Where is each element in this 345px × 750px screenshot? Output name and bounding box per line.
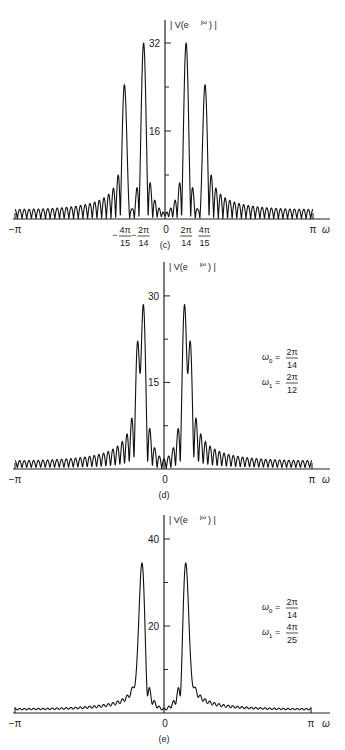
svg-text:ω: ω	[262, 602, 269, 612]
x-tick-label: −2π14	[131, 225, 150, 248]
x-axis-label: ω	[322, 718, 330, 729]
x-tick-label: −4π15	[112, 225, 131, 248]
y-axis-label-exponent: jω	[200, 19, 207, 25]
svg-text:ω: ω	[262, 352, 269, 362]
svg-text:15: 15	[120, 238, 130, 248]
frequency-annotation: ω0=2π14	[262, 347, 298, 370]
svg-text:14: 14	[287, 360, 297, 370]
x-tick-label: 0	[163, 224, 169, 235]
y-axis-label: | V(e	[170, 20, 189, 30]
frequency-annotation: ω0=2π14	[262, 597, 298, 620]
svg-text:14: 14	[139, 238, 149, 248]
svg-text:=: =	[275, 377, 280, 387]
svg-text:4π: 4π	[286, 622, 297, 632]
y-axis-label: | V(e	[169, 515, 188, 525]
svg-text:12: 12	[287, 385, 297, 395]
panel-d: | V(ejω) |1530−π0πω(d)ω0=2π14ω1=2π12	[0, 250, 345, 500]
svg-text:) |: ) |	[209, 20, 217, 30]
panel-e: | V(ejω) |2040−π0πω(e)ω0=2π14ω1=4π25	[0, 500, 345, 750]
frequency-annotation: ω1=4π25	[262, 622, 298, 645]
svg-text:) |: ) |	[208, 515, 216, 525]
svg-text:15: 15	[199, 238, 209, 248]
x-axis-label: ω	[322, 224, 330, 235]
spectrum-chart-c: | V(ejω) |1632−π−2π14−4π1502π144π15πω(c)	[0, 0, 345, 250]
svg-text:=: =	[275, 602, 280, 612]
svg-text:ω: ω	[262, 377, 269, 387]
x-tick-label: −π	[9, 224, 22, 235]
y-tick-label: 15	[148, 377, 160, 388]
svg-text:14: 14	[181, 238, 191, 248]
svg-text:2π: 2π	[286, 372, 297, 382]
y-tick-label: 16	[149, 126, 161, 137]
svg-text:=: =	[275, 352, 280, 362]
x-tick-label: 4π15	[198, 225, 210, 248]
spectrum-chart-e: | V(ejω) |2040−π0πω(e)ω0=2π14ω1=4π25	[0, 500, 345, 750]
svg-text:2π: 2π	[138, 225, 149, 235]
svg-text:−: −	[131, 230, 136, 240]
x-tick-label: π	[310, 224, 317, 235]
svg-text:14: 14	[287, 610, 297, 620]
y-axis-label-exponent: jω	[199, 261, 206, 267]
spectrum-chart-d: | V(ejω) |1530−π0πω(d)ω0=2π14ω1=2π12	[0, 250, 345, 500]
svg-text:−: −	[112, 230, 117, 240]
x-tick-label: π	[309, 474, 316, 485]
svg-text:) |: ) |	[208, 262, 216, 272]
x-tick-label: −π	[9, 474, 22, 485]
y-axis-label: | V(e	[169, 262, 188, 272]
svg-text:ω: ω	[262, 627, 269, 637]
figure-caption: (d)	[159, 490, 170, 500]
figure-caption: (c)	[160, 240, 171, 250]
frequency-annotation: ω1=2π12	[262, 372, 298, 395]
svg-text:25: 25	[287, 635, 297, 645]
y-tick-label: 30	[148, 291, 160, 302]
y-axis-label-exponent: jω	[199, 514, 206, 520]
figure-caption: (e)	[159, 734, 170, 744]
svg-text:2π: 2π	[286, 347, 297, 357]
x-tick-label: −π	[9, 718, 22, 729]
x-tick-label: 2π14	[180, 225, 192, 248]
svg-text:2π: 2π	[286, 597, 297, 607]
svg-text:1: 1	[269, 633, 273, 639]
svg-text:=: =	[275, 627, 280, 637]
x-tick-label: 0	[162, 474, 168, 485]
svg-text:1: 1	[269, 383, 273, 389]
svg-text:0: 0	[269, 358, 273, 364]
svg-text:4π: 4π	[199, 225, 210, 235]
svg-text:2π: 2π	[181, 225, 192, 235]
svg-text:0: 0	[269, 608, 273, 614]
x-tick-label: 0	[162, 718, 168, 729]
x-axis-label: ω	[322, 474, 330, 485]
y-tick-label: 32	[149, 38, 161, 49]
spectrum-curve	[15, 43, 313, 219]
panel-c: | V(ejω) |1632−π−2π14−4π1502π144π15πω(c)	[0, 0, 345, 250]
x-tick-label: π	[308, 718, 315, 729]
y-tick-label: 40	[148, 534, 160, 545]
svg-text:4π: 4π	[119, 225, 130, 235]
y-tick-label: 20	[148, 621, 160, 632]
